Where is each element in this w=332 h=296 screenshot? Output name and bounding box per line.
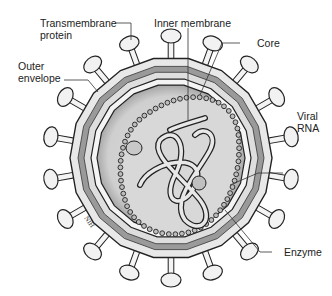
label-inner-membrane: Inner membrane bbox=[154, 17, 231, 29]
label-enzyme: Enzyme bbox=[284, 246, 322, 258]
label-transmembrane-protein: Transmembrane protein bbox=[40, 17, 117, 41]
label-core: Core bbox=[257, 37, 280, 49]
label-viral-rna: Viral RNA bbox=[297, 110, 319, 134]
virus-diagram: NIH bbox=[0, 0, 332, 296]
label-outer-envelope: Outer envelope bbox=[18, 60, 61, 84]
